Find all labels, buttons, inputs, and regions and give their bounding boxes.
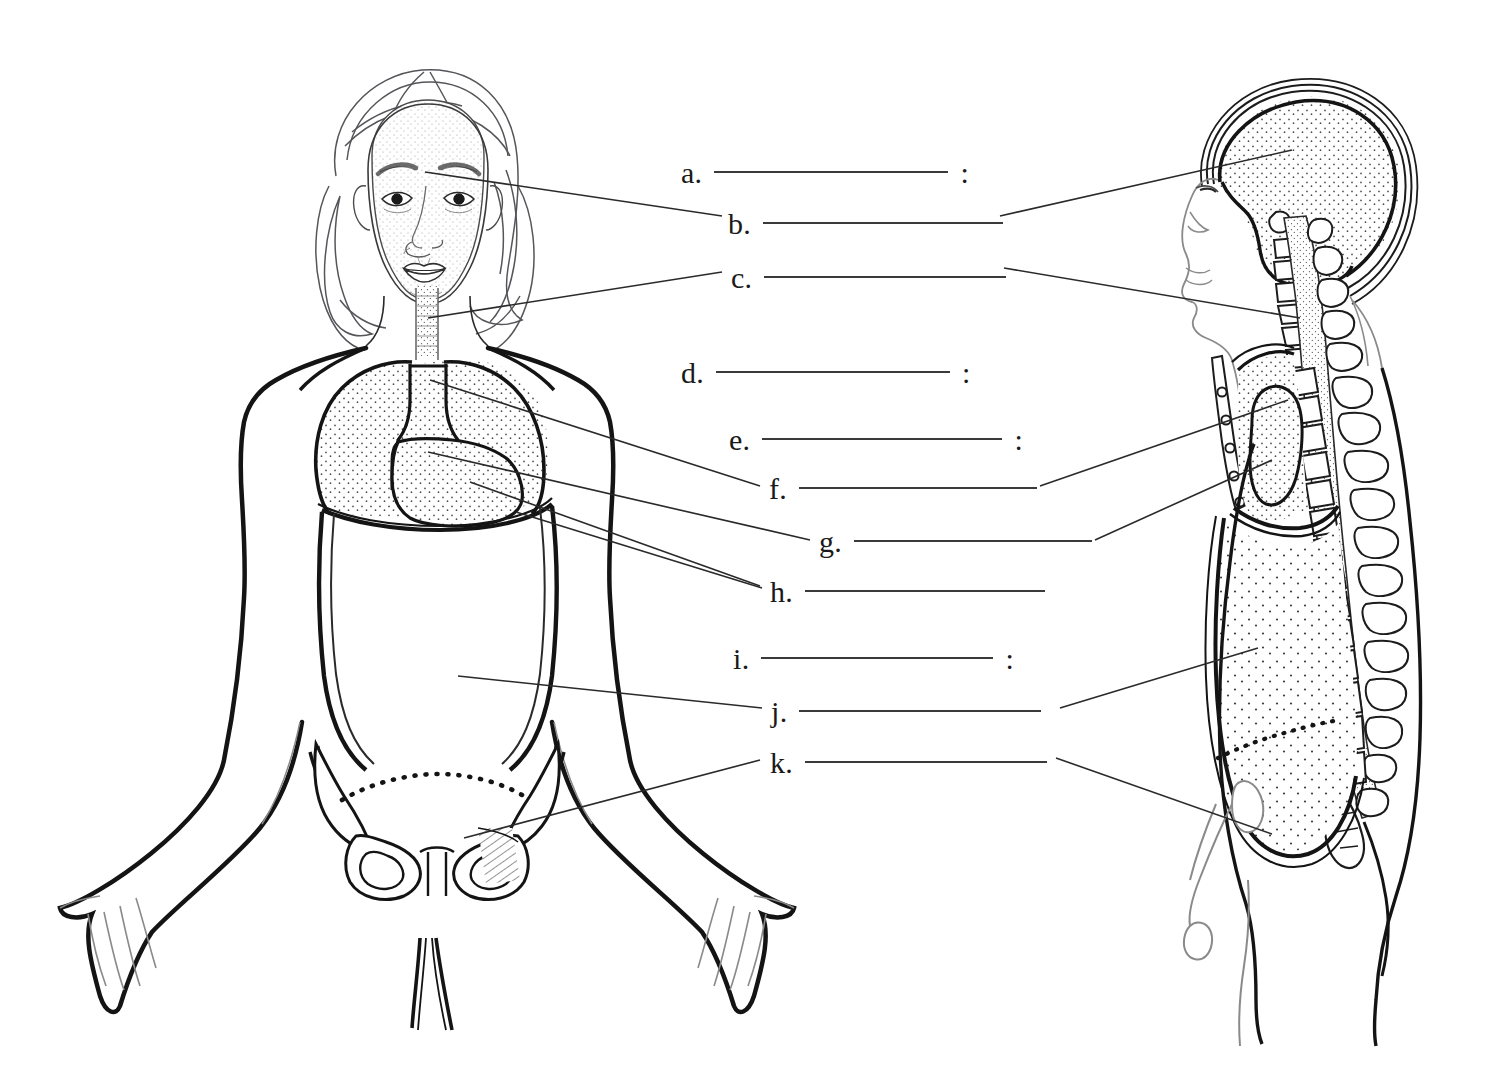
- label-row-b[interactable]: b.: [728, 209, 1015, 239]
- left-hand: [60, 896, 156, 990]
- answer-blank-b[interactable]: [763, 222, 1003, 224]
- pelvic-brim-dotted: [342, 774, 530, 800]
- label-colon-i: :: [1005, 644, 1013, 674]
- lateral-figure: [1182, 79, 1420, 1046]
- label-letter-d: d.: [681, 358, 704, 388]
- label-row-e[interactable]: e. :: [729, 425, 1023, 455]
- leader-h2-anterior: [516, 512, 762, 588]
- abdominopelvic-outline: [319, 512, 366, 770]
- label-letter-f: f.: [769, 474, 787, 504]
- answer-blank-d[interactable]: [716, 371, 950, 373]
- label-letter-k: k.: [770, 748, 793, 778]
- answer-blank-j[interactable]: [799, 710, 1041, 712]
- label-colon-e: :: [1014, 425, 1022, 455]
- label-row-d[interactable]: d. :: [681, 358, 970, 388]
- label-letter-e: e.: [729, 425, 750, 455]
- label-row-j[interactable]: j.: [771, 697, 1053, 727]
- label-row-g[interactable]: g.: [819, 527, 1104, 557]
- leader-j-anterior: [458, 676, 762, 708]
- answer-blank-i[interactable]: [761, 657, 993, 659]
- leader-c-lateral: [1004, 268, 1300, 318]
- label-letter-g: g.: [819, 527, 842, 557]
- leader-k-anterior: [464, 760, 760, 838]
- label-row-f[interactable]: f.: [769, 474, 1049, 504]
- answer-blank-g[interactable]: [854, 540, 1092, 542]
- answer-blank-a[interactable]: [714, 171, 948, 173]
- answer-blank-c[interactable]: [764, 276, 1006, 278]
- label-colon-a: :: [960, 158, 968, 188]
- label-row-h[interactable]: h.: [770, 577, 1057, 607]
- trachea: [416, 286, 438, 356]
- label-row-i[interactable]: i. :: [733, 644, 1014, 674]
- anterior-figure: [60, 70, 794, 1030]
- answer-blank-f[interactable]: [799, 487, 1037, 489]
- label-row-c[interactable]: c.: [731, 263, 1018, 293]
- label-colon-d: :: [962, 358, 970, 388]
- label-letter-i: i.: [733, 644, 749, 674]
- label-letter-b: b.: [728, 209, 751, 239]
- answer-blank-h[interactable]: [805, 590, 1045, 592]
- label-row-k[interactable]: k.: [770, 748, 1059, 778]
- label-letter-a: a.: [681, 158, 702, 188]
- answer-blank-k[interactable]: [805, 761, 1047, 763]
- right-hand: [698, 896, 794, 990]
- leader-h-anterior: [470, 482, 760, 586]
- worksheet-page: a. : b. c. d. : e. : f. g. h. i.: [0, 0, 1506, 1074]
- label-letter-h: h.: [770, 577, 793, 607]
- label-letter-j: j.: [771, 697, 787, 727]
- answer-blank-e[interactable]: [762, 438, 1002, 440]
- label-letter-c: c.: [731, 263, 752, 293]
- label-row-a[interactable]: a. :: [681, 158, 969, 188]
